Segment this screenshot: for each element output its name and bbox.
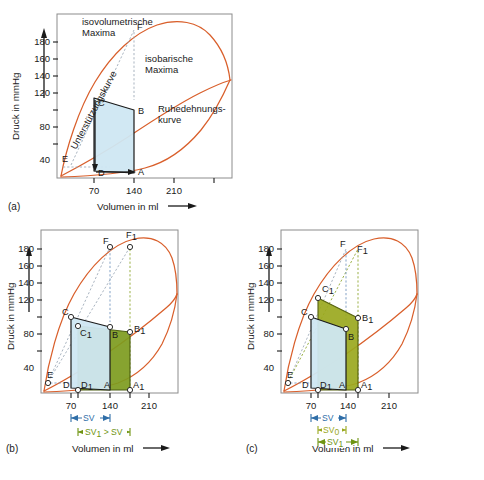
sv-bracket-label-c: SV <box>322 413 334 423</box>
point-label-F-c: F <box>340 239 346 249</box>
node-A1-b <box>127 387 132 392</box>
point-label-F-b: F <box>103 236 109 246</box>
y-tick-140-a: 140 <box>34 70 50 81</box>
y-tick-40-b: 40 <box>23 362 34 373</box>
sv0-bracket-c: SV0 <box>318 424 346 437</box>
y-tick-180-b: 180 <box>18 243 34 254</box>
sv1-bracket-b: SV1 > SV <box>78 426 130 439</box>
plot-frame-a <box>57 14 232 178</box>
x-tick-210-b: 210 <box>141 400 157 411</box>
point-label-B-a: B <box>138 106 144 116</box>
isovolumetric-label-line2-a: Maxima <box>82 27 116 38</box>
point-label-D-c: D <box>302 380 309 390</box>
sv1-text-b: SV <box>85 427 97 437</box>
point-label-E-b: E <box>47 370 53 380</box>
panel-c-plot: 180 160 140 120 80 40 Druck in mmHg 70 1… <box>240 222 484 462</box>
ruhedehnungskurve-label-line1-a: Ruhedehnungs- <box>158 103 226 114</box>
sv-bracket-label-b: SV <box>83 413 95 423</box>
y-tick-140-b: 140 <box>18 277 34 288</box>
panel-a-plot: 180 160 140 120 80 40 Druck in mmHg 70 1… <box>0 0 330 215</box>
node-C1-c <box>315 295 320 300</box>
y-tick-120-c: 120 <box>258 294 274 305</box>
point-label-A-a: A <box>138 167 145 177</box>
point-label-A-b: A <box>104 380 111 390</box>
y-axis-c: 180 160 140 120 80 40 Druck in mmHg <box>245 243 282 373</box>
node-A1-c <box>355 387 360 392</box>
y-axis-title-b: Druck in mmHg <box>5 283 16 351</box>
y-tick-120-b: 120 <box>18 294 34 305</box>
ruhedehnungskurve-label-line2-a: kurve <box>158 114 181 125</box>
y-axis-title-a: Druck in mmHg <box>10 73 21 141</box>
point-label-F-a: F <box>137 22 143 32</box>
y-tick-40-c: 40 <box>263 362 274 373</box>
point-label-C-b: C <box>62 307 69 317</box>
y-tick-180-a: 180 <box>34 36 50 47</box>
node-E-b <box>45 380 50 385</box>
node-C-c <box>308 314 313 319</box>
x-tick-70-a: 70 <box>89 185 100 196</box>
x-tick-140-a: 140 <box>126 185 142 196</box>
y-axis-a: 180 160 140 120 80 40 Druck in mmHg <box>10 28 58 165</box>
x-axis-a: 70 140 210 Volumen in ml <box>89 178 214 212</box>
panel-label-c: (c) <box>246 443 258 454</box>
isobaric-label-line2-a: Maxima <box>145 64 179 75</box>
x-tick-210-a: 210 <box>166 185 182 196</box>
y-tick-180-c: 180 <box>258 243 274 254</box>
node-B-c <box>343 326 348 331</box>
node-F1-b <box>127 244 132 249</box>
work-loop-a <box>94 98 134 173</box>
panel-label-b: (b) <box>6 443 18 454</box>
isobaric-label-line1-a: isobarische <box>145 53 193 64</box>
point-label-D-b: D <box>63 380 70 390</box>
x-tick-140-b: 140 <box>102 400 118 411</box>
point-label-C-c: C <box>301 307 308 317</box>
panel-label-a: (a) <box>8 201 20 212</box>
y-tick-80-b: 80 <box>23 328 34 339</box>
y-tick-160-b: 160 <box>18 260 34 271</box>
point-label-C-a: C <box>98 98 105 108</box>
point-label-E-c: E <box>287 370 293 380</box>
x-axis-b: 70 140 210 Volumen in ml <box>66 393 170 454</box>
y-tick-160-c: 160 <box>258 260 274 271</box>
node-E-c <box>285 380 290 385</box>
panel-c: 180 160 140 120 80 40 Druck in mmHg 70 1… <box>240 222 484 462</box>
panel-b-plot: 180 160 140 120 80 40 Druck in mmHg 70 1… <box>0 222 250 462</box>
node-D1-b <box>75 387 80 392</box>
y-tick-40-a: 40 <box>39 154 50 165</box>
y-tick-80-a: 80 <box>39 121 50 132</box>
sv-bracket-c: SV <box>311 412 346 424</box>
y-tick-80-c: 80 <box>263 328 274 339</box>
point-label-B-c: B <box>348 332 354 342</box>
point-label-D-a: D <box>98 168 105 178</box>
x-tick-140-c: 140 <box>340 400 356 411</box>
x-tick-70-b: 70 <box>66 400 77 411</box>
x-axis-title-b: Volumen in ml <box>72 443 134 454</box>
node-B1-b <box>127 329 132 334</box>
panel-a: 180 160 140 120 80 40 Druck in mmHg 70 1… <box>0 0 330 215</box>
point-label-A-c: A <box>339 380 346 390</box>
point-label-B-b: B <box>112 330 118 340</box>
node-B-b <box>107 324 112 329</box>
y-tick-160-a: 160 <box>34 53 50 64</box>
y-tick-140-c: 140 <box>258 277 274 288</box>
y-tick-120-a: 120 <box>34 87 50 98</box>
y-axis-title-c: Druck in mmHg <box>245 283 256 351</box>
sv-bracket-b: SV <box>71 412 110 424</box>
panel-b: 180 160 140 120 80 40 Druck in mmHg 70 1… <box>0 222 250 462</box>
point-label-E-a: E <box>62 154 68 164</box>
sv1-suffix-b: > SV <box>101 427 123 437</box>
x-tick-70-c: 70 <box>306 400 317 411</box>
node-B1-c <box>355 315 360 320</box>
y-axis-b: 180 160 140 120 80 40 Druck in mmHg <box>5 243 42 373</box>
x-tick-210-c: 210 <box>381 400 397 411</box>
x-axis-title-a: Volumen in ml <box>97 201 159 212</box>
node-C-b <box>68 314 73 319</box>
